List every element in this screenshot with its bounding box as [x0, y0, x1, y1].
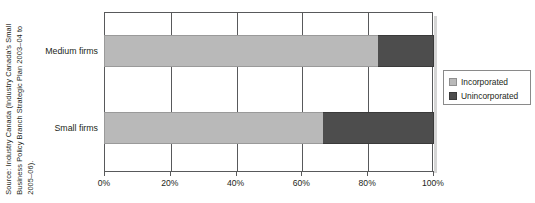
bar-segment-incorporated	[104, 112, 323, 144]
chart-screenshot: Source: Industry Canada (Industry Canada…	[0, 0, 535, 203]
x-tick-20	[170, 171, 171, 176]
legend-item-incorporated: Incorporated	[449, 75, 526, 88]
x-tick-label-60: 60%	[293, 178, 310, 188]
legend-swatch-icon	[449, 78, 457, 86]
legend-swatch-icon	[449, 92, 457, 100]
bar-segment-unincorporated	[323, 112, 434, 144]
source-note: Source: Industry Canada (Industry Canada…	[0, 10, 40, 195]
legend-label: Incorporated	[461, 77, 508, 87]
x-tick-60	[301, 171, 302, 176]
bar-segment-unincorporated	[378, 35, 434, 67]
x-axis-line	[104, 171, 434, 172]
x-tick-100	[433, 171, 434, 176]
x-tick-label-0: 0%	[98, 178, 110, 188]
category-label-small-firms: Small firms	[24, 123, 98, 133]
legend-item-unincorporated: Unincorporated	[449, 89, 526, 102]
x-tick-label-40: 40%	[227, 178, 244, 188]
x-tick-40	[236, 171, 237, 176]
bar-small-firms	[104, 112, 434, 144]
legend: Incorporated Unincorporated	[443, 70, 531, 105]
bar-segment-incorporated	[104, 35, 378, 67]
source-note-text: Source: Industry Canada (Industry Canada…	[3, 15, 37, 195]
x-tick-0	[104, 171, 105, 176]
x-tick-label-100: 100%	[422, 178, 444, 188]
x-tick-label-80: 80%	[359, 178, 376, 188]
plot-shadow	[434, 16, 437, 173]
category-label-medium-firms: Medium firms	[24, 46, 98, 56]
legend-label: Unincorporated	[461, 91, 518, 101]
bar-medium-firms	[104, 35, 434, 67]
x-tick-80	[367, 171, 368, 176]
x-tick-label-20: 20%	[161, 178, 178, 188]
